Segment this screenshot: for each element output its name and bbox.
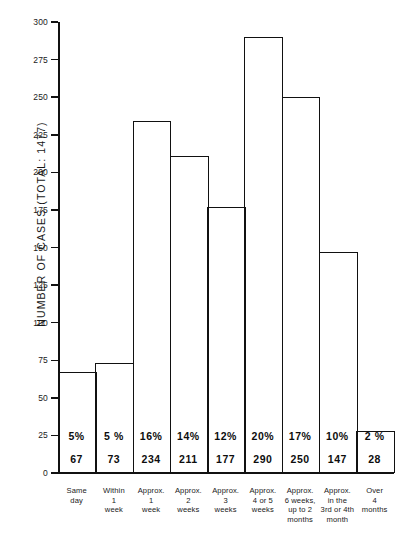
bar-percent-label: 17% (282, 430, 319, 442)
y-tick-300 (51, 21, 58, 23)
bar-percent-label: 12% (207, 430, 244, 442)
bar-percent-label: 10% (319, 430, 356, 442)
bar-value-label: 67 (58, 453, 95, 465)
bar-value-label: 73 (95, 453, 132, 465)
y-tick-125 (51, 284, 58, 286)
y-tick-label-250: 250 (14, 92, 48, 102)
bar (133, 121, 172, 473)
y-tick-label-200: 200 (14, 167, 48, 177)
bar-value-label: 250 (282, 453, 319, 465)
plot-area (58, 22, 393, 473)
y-tick-label-275: 275 (14, 55, 48, 65)
y-tick-50 (51, 397, 58, 399)
bar-value-label: 290 (244, 453, 281, 465)
y-tick-275 (51, 59, 58, 61)
y-tick-label-100: 100 (14, 318, 48, 328)
bar-percent-label: 14% (170, 430, 207, 442)
y-tick-0 (51, 472, 58, 474)
bar-percent-label: 5 % (95, 430, 132, 442)
bar-chart: NUMBER OF CASES (TOTAL: 1477) 3002752502… (0, 0, 411, 533)
bar (170, 156, 209, 473)
bar-value-label: 234 (133, 453, 170, 465)
x-label-line: month (316, 515, 359, 525)
bar (282, 97, 321, 473)
y-tick-label-175: 175 (14, 205, 48, 215)
y-tick-label-75: 75 (14, 355, 48, 365)
bar-percent-label: 16% (133, 430, 170, 442)
y-tick-25 (51, 435, 58, 437)
y-tick-150 (51, 247, 58, 249)
y-tick-label-300: 300 (14, 17, 48, 27)
y-tick-label-25: 25 (14, 430, 48, 440)
y-tick-250 (51, 96, 58, 98)
bar-value-label: 211 (170, 453, 207, 465)
y-tick-75 (51, 360, 58, 362)
bar-percent-label: 5% (58, 430, 95, 442)
y-tick-175 (51, 209, 58, 211)
y-tick-label-225: 225 (14, 130, 48, 140)
x-label-line: Over (353, 486, 396, 496)
bar-value-label: 28 (356, 453, 393, 465)
y-tick-label-50: 50 (14, 393, 48, 403)
y-tick-label-125: 125 (14, 280, 48, 290)
y-tick-200 (51, 172, 58, 174)
bar-percent-label: 2 % (356, 430, 393, 442)
x-label-line: 4 (353, 496, 396, 506)
bar (244, 37, 283, 473)
bar-value-label: 177 (207, 453, 244, 465)
y-tick-225 (51, 134, 58, 136)
y-axis-title: NUMBER OF CASES (TOTAL: 1477) (35, 119, 47, 329)
y-tick-label-150: 150 (14, 243, 48, 253)
y-tick-label-0: 0 (14, 468, 48, 478)
x-label-line: months (353, 505, 396, 515)
bar-percent-label: 20% (244, 430, 281, 442)
y-tick-100 (51, 322, 58, 324)
x-axis-category-label: Over4months (353, 486, 396, 515)
bar-value-label: 147 (319, 453, 356, 465)
